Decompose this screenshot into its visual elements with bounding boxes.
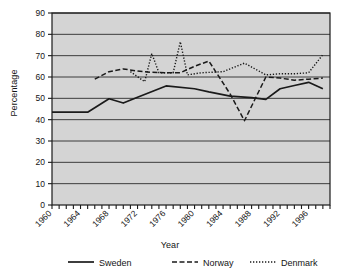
y-tick-label: 80 [36, 29, 46, 39]
y-tick-label: 0 [40, 200, 45, 210]
y-tick-label: 20 [36, 157, 46, 167]
line-chart-plot: 0102030405060708090 19601964196819721976… [0, 0, 345, 279]
x-tick-label: 1980 [176, 208, 197, 229]
legend-label-denmark: Denmark [281, 258, 318, 268]
x-tick-label: 1976 [147, 208, 168, 229]
y-tick-label: 70 [36, 51, 46, 61]
x-tick-label: 1988 [233, 208, 254, 229]
x-tick-labels: 1960196419681972197619801984198819921996 [33, 208, 310, 229]
x-tick-marks [52, 205, 330, 209]
chart-figure: Percentage Year 0102030405060708090 1960… [0, 0, 345, 279]
x-tick-label: 1992 [261, 208, 282, 229]
y-tick-label: 60 [36, 72, 46, 82]
y-tick-label: 50 [36, 93, 46, 103]
x-tick-label: 1960 [33, 208, 54, 229]
y-tick-label: 30 [36, 136, 46, 146]
y-tick-label: 10 [36, 179, 46, 189]
y-tick-label: 90 [36, 8, 46, 18]
chart-legend: SwedenNorwayDenmark [68, 258, 318, 268]
x-tick-label: 1972 [119, 208, 140, 229]
x-tick-label: 1964 [61, 208, 82, 229]
x-tick-label: 1996 [290, 208, 311, 229]
x-tick-label: 1968 [90, 208, 111, 229]
y-tick-label: 40 [36, 115, 46, 125]
y-tick-labels: 0102030405060708090 [36, 8, 46, 210]
x-tick-label: 1984 [204, 208, 225, 229]
legend-label-norway: Norway [203, 258, 234, 268]
legend-label-sweden: Sweden [99, 258, 132, 268]
